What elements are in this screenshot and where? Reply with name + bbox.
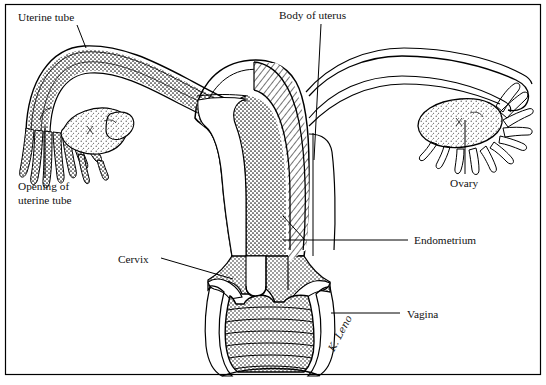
- label-vagina: Vagina: [407, 308, 438, 320]
- leader-body-of-uterus: [314, 24, 321, 160]
- leader-uterine-tube: [77, 25, 86, 48]
- label-uterine-tube: Uterine tube: [18, 11, 74, 23]
- anatomy-figure: Uterine tube Body of uterus Opening of u…: [0, 0, 546, 385]
- label-endometrium: Endometrium: [414, 234, 476, 246]
- label-opening-of-uterine-tube-line2: uterine tube: [18, 194, 72, 206]
- label-body-of-uterus: Body of uterus: [279, 9, 346, 21]
- right-ovary: [418, 99, 502, 148]
- label-cervix: Cervix: [118, 253, 149, 265]
- artist-signature: K. Leno: [326, 313, 354, 353]
- label-ovary: Ovary: [450, 177, 479, 189]
- broad-ligament: [306, 48, 532, 256]
- vagina-structure: [205, 286, 335, 376]
- anatomy-diagram-svg: Uterine tube Body of uterus Opening of u…: [0, 0, 546, 385]
- label-opening-of-uterine-tube-line1: Opening of: [18, 180, 69, 192]
- left-ovary: [61, 108, 134, 154]
